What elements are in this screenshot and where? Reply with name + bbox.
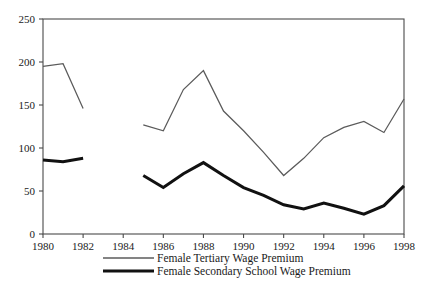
x-tick-label: 1990 [233, 240, 256, 252]
plot-area-border [43, 19, 404, 234]
series-line-2-segment-2 [143, 163, 404, 215]
y-tick-label: 100 [19, 142, 36, 154]
data-series-group [43, 64, 404, 215]
series-line-2-segment-1 [43, 158, 83, 161]
series-line-1-segment-2 [143, 71, 404, 176]
line-chart: 050100150200250 198019821984198619881990… [0, 0, 429, 285]
legend-label-1: Female Tertiary Wage Premium [157, 252, 303, 265]
x-tick-label: 1996 [353, 240, 376, 252]
legend-label-2: Female Secondary School Wage Premium [157, 265, 351, 278]
x-tick-label: 1998 [393, 240, 416, 252]
x-tick-label: 1994 [313, 240, 336, 252]
plot-frame [43, 19, 404, 234]
y-axis: 050100150200250 [19, 13, 44, 240]
x-tick-label: 1980 [32, 240, 55, 252]
y-tick-label: 50 [24, 185, 36, 197]
chart-figure: 050100150200250 198019821984198619881990… [0, 0, 429, 285]
y-tick-label: 250 [19, 13, 36, 25]
x-axis: 1980198219841986198819901992199419961998 [32, 234, 416, 252]
y-tick-label: 200 [19, 56, 36, 68]
x-tick-label: 1982 [72, 240, 94, 252]
chart-legend: Female Tertiary Wage PremiumFemale Secon… [103, 252, 351, 278]
y-tick-label: 150 [19, 99, 36, 111]
y-tick-label: 0 [30, 228, 36, 240]
x-tick-label: 1986 [152, 240, 175, 252]
x-tick-label: 1992 [273, 240, 295, 252]
x-tick-label: 1984 [112, 240, 135, 252]
x-tick-label: 1988 [192, 240, 215, 252]
series-line-1-segment-1 [43, 64, 83, 109]
